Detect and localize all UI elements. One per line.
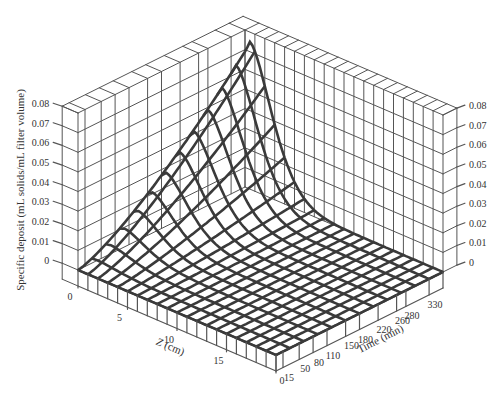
value-tick-label-left: 0 [44, 255, 49, 266]
z-tick-label: 15 [214, 355, 224, 366]
value-tick-mark [53, 260, 62, 263]
value-tick-mark [53, 162, 62, 165]
value-tick-label-left: 0.06 [32, 137, 50, 148]
value-tick-label-right: 0.07 [469, 120, 487, 131]
value-tick-mark [457, 184, 465, 187]
time-tick-label: 50 [300, 363, 310, 374]
value-tick-mark [457, 203, 465, 206]
value-tick-mark [457, 144, 465, 147]
value-tick-label-left: 0.03 [32, 196, 50, 207]
value-tick-mark [457, 125, 465, 128]
value-tick-mark [457, 105, 465, 108]
value-tick-mark [53, 182, 62, 185]
value-tick-label-right: 0.05 [469, 159, 487, 170]
value-tick-mark [53, 201, 62, 204]
value-tick-mark [53, 241, 62, 244]
value-tick-mark [53, 123, 62, 126]
value-tick-label-right: 0 [469, 257, 474, 268]
time-tick-label: 110 [326, 350, 341, 361]
value-tick-label-left: 0.04 [32, 177, 50, 188]
time-tick-label: 330 [428, 299, 443, 310]
chart-canvas: 00.010.020.030.040.050.060.070.0800.010.… [0, 0, 498, 409]
time-tick-label: 280 [404, 310, 419, 321]
value-tick-mark [53, 103, 62, 106]
value-tick-mark [457, 164, 465, 167]
z-tick-label: 0 [68, 291, 73, 302]
value-tick-mark [457, 262, 465, 265]
value-tick-label-right: 0.04 [469, 179, 487, 190]
time-tick-label: 15 [284, 372, 294, 383]
value-tick-label-left: 0.02 [32, 216, 50, 227]
value-tick-label-left: 0.07 [32, 118, 50, 129]
value-tick-label-left: 0.01 [32, 236, 50, 247]
y-axis-title: Specific deposit (mL solids/mL filter vo… [14, 89, 27, 291]
value-tick-label-right: 0.08 [469, 100, 487, 111]
value-tick-label-left: 0.05 [32, 157, 50, 168]
value-tick-label-right: 0.03 [469, 198, 487, 209]
value-tick-label-right: 0.02 [469, 218, 487, 229]
z-tick-label: 5 [117, 312, 122, 323]
value-tick-label-right: 0.06 [469, 139, 487, 150]
deposit-surface-mesh [78, 42, 443, 355]
value-tick-mark [457, 243, 465, 246]
value-tick-label-left: 0.08 [32, 98, 50, 109]
value-tick-mark [457, 223, 465, 226]
value-tick-mark [53, 142, 62, 145]
value-tick-label-right: 0.01 [469, 237, 487, 248]
value-tick-mark [53, 221, 62, 224]
time-tick-label: 80 [314, 357, 324, 368]
surface-chart: 00.010.020.030.040.050.060.070.0800.010.… [0, 0, 498, 409]
chart-back-walls [62, 16, 457, 272]
